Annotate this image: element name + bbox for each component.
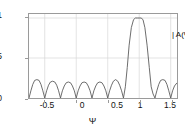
x-tick-label: 0 [62, 101, 102, 110]
y-tick-mark [25, 58, 28, 59]
y-tick-label: 0.5 [0, 52, 2, 61]
y-tick-mark [25, 99, 28, 100]
series-annotation-label: | A(Ψ) | [172, 31, 185, 39]
data-series-curve [29, 14, 177, 98]
y-tick-label: 1 [0, 11, 2, 20]
x-tick-label: -0.5 [27, 101, 67, 110]
y-tick-label: 0 [0, 94, 2, 103]
x-tick-mark [44, 100, 45, 103]
chart-figure: 1 0.5 0 -0.5 0 0.5 1 1.5 Ψ | A(Ψ) | [0, 0, 185, 133]
x-tick-mark [140, 100, 141, 103]
x-tick-mark [108, 100, 109, 103]
x-axis-label: Ψ [0, 117, 185, 126]
y-tick-mark [25, 17, 28, 18]
x-tick-label: 1.5 [150, 101, 185, 110]
plot-area: | A(Ψ) | [28, 13, 178, 99]
x-tick-mark [172, 100, 173, 103]
x-tick-mark [76, 100, 77, 103]
